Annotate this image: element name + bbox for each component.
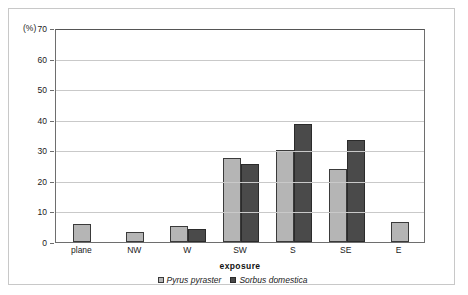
- y-axis-tick-mark: [50, 90, 54, 91]
- chart-frame: (%) 010203040506070 planeNWWSWSSEE expos…: [8, 8, 455, 285]
- x-axis-tick-label: W: [183, 245, 191, 255]
- grid-line: [56, 182, 424, 183]
- plot-area: [55, 29, 425, 243]
- y-axis-tick-label: 10: [38, 207, 47, 217]
- x-axis-tick-label: plane: [71, 245, 92, 255]
- x-axis-title: exposure: [55, 261, 425, 271]
- y-axis-tick-mark: [50, 60, 54, 61]
- y-axis-tick-label: 40: [38, 116, 47, 126]
- chart-legend: Pyrus pyrasterSorbus domestica: [9, 275, 456, 285]
- legend-swatch-icon: [230, 277, 236, 283]
- bar-nw-series1: [126, 232, 144, 242]
- y-axis-tick-mark: [50, 212, 54, 213]
- x-axis-tick-label: E: [396, 245, 402, 255]
- bar-sw-series2: [241, 164, 259, 242]
- x-axis-tick-label: SE: [340, 245, 351, 255]
- x-axis-tick-label: NW: [127, 245, 141, 255]
- y-axis-tick-label: 70: [38, 24, 47, 34]
- grid-line: [56, 121, 424, 122]
- bar-se-series1: [329, 169, 347, 242]
- y-axis-tick-label: 0: [42, 238, 47, 248]
- grid-line: [56, 60, 424, 61]
- bars-container: [56, 30, 424, 242]
- legend-swatch-icon: [158, 277, 164, 283]
- y-axis-tick-mark: [50, 243, 54, 244]
- bar-plane-series1: [73, 224, 91, 242]
- legend-label: Sorbus domestica: [239, 275, 307, 285]
- grid-line: [56, 90, 424, 91]
- bar-se-series2: [347, 140, 365, 242]
- x-axis-tick-label: SW: [233, 245, 247, 255]
- y-axis-tick-mark: [50, 151, 54, 152]
- y-axis-tick-label: 50: [38, 85, 47, 95]
- bar-sw-series1: [223, 158, 241, 242]
- bar-w-series2: [188, 229, 206, 242]
- y-axis-tick-label: 20: [38, 177, 47, 187]
- legend-item: Pyrus pyraster: [158, 275, 222, 285]
- y-axis-tick-mark: [50, 182, 54, 183]
- bar-s-series1: [276, 150, 294, 242]
- legend-item: Sorbus domestica: [230, 275, 307, 285]
- y-axis: 010203040506070: [9, 9, 55, 244]
- bar-s-series2: [294, 124, 312, 242]
- y-axis-tick-mark: [50, 121, 54, 122]
- bar-w-series1: [170, 226, 188, 242]
- y-axis-tick-label: 60: [38, 55, 47, 65]
- y-axis-tick-mark: [50, 29, 54, 30]
- x-axis-tick-label: S: [290, 245, 296, 255]
- y-axis-tick-label: 30: [38, 146, 47, 156]
- legend-label: Pyrus pyraster: [167, 275, 222, 285]
- x-axis: planeNWWSWSSEE: [55, 245, 425, 261]
- grid-line: [56, 151, 424, 152]
- bar-e-series1: [391, 222, 409, 242]
- grid-line: [56, 212, 424, 213]
